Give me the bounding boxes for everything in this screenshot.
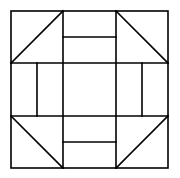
outer-square xyxy=(11,11,168,168)
top-left-diagonal xyxy=(11,11,63,63)
divider-lines xyxy=(37,37,142,142)
bottom-right-diagonal xyxy=(116,116,168,168)
diagonal-lines xyxy=(11,11,168,168)
bottom-left-diagonal xyxy=(11,116,63,168)
quilt-block-diagram xyxy=(0,0,180,178)
grid-lines xyxy=(11,11,168,168)
top-right-diagonal xyxy=(116,11,168,63)
